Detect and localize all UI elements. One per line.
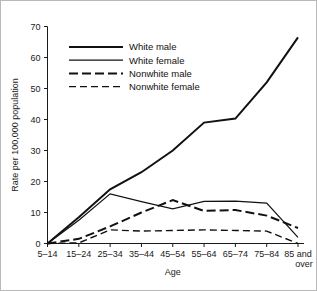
y-tick-label: 20	[30, 177, 40, 187]
x-tick-label: 55–64	[192, 249, 217, 259]
series-line-nonwhite-male	[48, 200, 299, 243]
line-chart: 010203040506070 5–1415–2425–3435–4445–54…	[1, 1, 317, 291]
legend-label-nonwhite-female: Nonwhite female	[129, 81, 200, 92]
y-tick-label: 60	[30, 53, 40, 63]
y-tick-label: 40	[30, 115, 40, 125]
x-tick-label: 25–34	[98, 249, 123, 259]
series-line-nonwhite-female	[48, 230, 299, 244]
y-axis-ticks	[44, 27, 48, 244]
x-tick-label: 5–14	[37, 249, 57, 259]
chart-figure: 010203040506070 5–1415–2425–3435–4445–54…	[0, 0, 317, 291]
x-tick-label: 75–84	[254, 249, 279, 259]
y-tick-label: 50	[30, 84, 40, 94]
chart-legend: White maleWhite femaleNonwhite maleNonwh…	[69, 41, 200, 92]
x-tick-label: 45–54	[160, 249, 185, 259]
x-tick-label-line2: over	[295, 259, 313, 269]
legend-label-white-female: White female	[129, 55, 184, 66]
legend-label-white-male: White male	[129, 41, 177, 52]
y-tick-label: 70	[30, 22, 40, 32]
y-tick-label: 0	[35, 239, 40, 249]
x-axis-ticks	[48, 244, 299, 248]
x-tick-label: 85 and	[284, 249, 312, 259]
x-tick-label: 35–44	[129, 249, 154, 259]
y-tick-label: 10	[30, 208, 40, 218]
y-tick-label: 30	[30, 146, 40, 156]
series-line-white-female	[48, 194, 299, 244]
x-tick-label: 15–24	[66, 249, 91, 259]
x-axis-title: Age	[165, 267, 181, 277]
legend-label-nonwhite-male: Nonwhite male	[129, 68, 192, 79]
y-axis-tick-labels: 010203040506070	[30, 22, 40, 249]
y-axis-title: Rate per 100,000 population	[10, 78, 20, 192]
x-axis-tick-labels: 5–1415–2425–3435–4445–5455–6465–7475–848…	[37, 249, 312, 269]
x-tick-label: 65–74	[223, 249, 248, 259]
